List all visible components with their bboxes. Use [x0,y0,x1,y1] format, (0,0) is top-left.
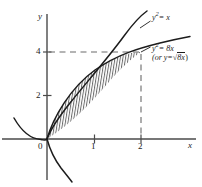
shaded-region [47,52,141,139]
origin-label: 0 [38,142,43,151]
parabola-rhs: = x [159,13,170,22]
curve-y-squared-equals-8x-lower [47,139,72,182]
semicubic-line-1: y2= 8x [152,44,174,53]
semicubic-prefix: (or y= [152,53,173,62]
curve-label-parabola: y2= x [152,14,170,22]
graph-canvas [0,0,202,187]
y-axis-label: y [38,12,42,21]
y-tick-label-2: 2 [36,91,41,100]
x-axis-label: x [188,141,192,150]
semicubic-suffix: ) [185,53,188,62]
x-tick-label-2: 2 [138,142,143,151]
curve-label-semicubic: y2= 8x (or y=√8x) [152,45,188,62]
curve-y-equals-x-squared [14,11,147,140]
parabola-label-leader [140,21,151,28]
y-tick-label-4: 4 [36,47,41,56]
semicubic-rhs: = 8x [159,44,174,53]
hatch-fill [47,52,141,139]
area-between-curves-figure: 0 1 2 2 4 x y y2= x y2= 8x (or y=√8x) [0,0,202,187]
x-tick-label-1: 1 [91,142,96,151]
axis-group [2,14,196,180]
semicubic-radicand: 8x [177,52,186,62]
semicubic-line-2: (or y=√8x) [152,54,188,62]
